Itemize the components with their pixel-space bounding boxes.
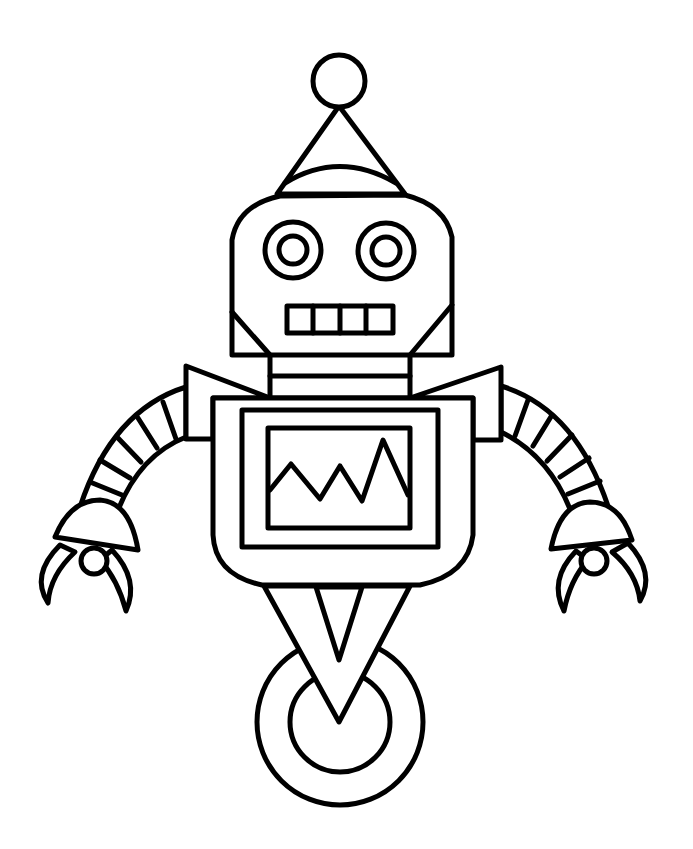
left-arm bbox=[41, 387, 186, 611]
right-hand-dome bbox=[551, 502, 632, 549]
antenna bbox=[277, 55, 405, 194]
antenna-cone bbox=[277, 106, 405, 194]
left-claw-outer bbox=[41, 545, 75, 603]
body bbox=[213, 398, 473, 585]
left-arm-tube bbox=[80, 387, 186, 510]
right-claw-outer bbox=[612, 543, 646, 601]
left-hand-ball bbox=[81, 548, 107, 574]
antenna-ball bbox=[313, 55, 365, 107]
right-arm-tube bbox=[501, 386, 608, 509]
neck bbox=[270, 354, 410, 398]
robot-coloring-page bbox=[0, 0, 693, 849]
right-hand-ball bbox=[581, 548, 607, 574]
head bbox=[232, 195, 452, 355]
right-arm bbox=[501, 386, 646, 611]
left-hand-dome bbox=[55, 500, 138, 550]
